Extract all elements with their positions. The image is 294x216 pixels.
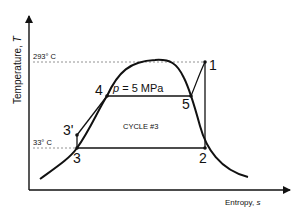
temp-label-293: 293° C	[33, 52, 57, 61]
temp-label-33: 33° C	[33, 138, 52, 147]
process-5-1	[191, 62, 205, 96]
ts-diagram: 1 2 3 3' 4 5 293° C 33° C p = 5 MPa CYCL…	[0, 0, 294, 216]
point-2-label: 2	[199, 150, 207, 166]
point-3p-label: 3'	[63, 122, 73, 138]
point-3-label: 3	[73, 150, 81, 166]
point-1-dot	[203, 60, 207, 64]
y-axis-label: Temperature, T	[12, 35, 23, 104]
saturation-dome	[40, 60, 248, 179]
point-4-label: 4	[95, 82, 103, 98]
point-5-label: 5	[182, 96, 190, 112]
point-3p-dot	[75, 133, 79, 137]
y-axis-label-text: Temperature,	[12, 42, 23, 104]
x-axis-label: Entropy, s	[225, 198, 260, 207]
pressure-symbol: p	[112, 82, 119, 94]
point-4-dot	[105, 94, 109, 98]
y-axis-symbol: T	[12, 35, 23, 42]
pressure-label: p = 5 MPa	[112, 82, 164, 94]
point-1-label: 1	[209, 57, 217, 73]
x-axis-symbol: s	[256, 198, 260, 207]
process-3p-4	[77, 96, 107, 135]
cycle-label: CYCLE #3	[123, 122, 158, 131]
pressure-value: = 5 MPa	[119, 82, 164, 94]
x-axis-label-text: Entropy,	[225, 198, 256, 207]
